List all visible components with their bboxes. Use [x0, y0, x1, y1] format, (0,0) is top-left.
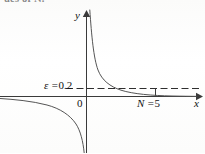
N-value-label: N =5 — [137, 97, 160, 109]
hyperbola-lower-left-branch — [0, 99, 84, 154]
N-symbol-text: N = — [137, 97, 155, 109]
y-axis-label: y — [75, 9, 80, 21]
origin-label: 0 — [77, 97, 83, 109]
plot-canvas — [0, 0, 205, 153]
hyperbola-upper-right-branch — [90, 10, 196, 96]
epsilon-value-label: ε =0.2 — [44, 79, 72, 91]
limit-definition-figure: ues of N. ε =0.2 0 N =5 y x — [0, 0, 205, 153]
epsilon-number-text: 0.2 — [59, 79, 73, 91]
x-axis-label: x — [194, 97, 199, 109]
epsilon-symbol-text: ε = — [44, 79, 59, 91]
y-axis — [83, 10, 90, 153]
y-axis-arrowhead — [83, 10, 90, 17]
N-number-text: 5 — [155, 97, 161, 109]
